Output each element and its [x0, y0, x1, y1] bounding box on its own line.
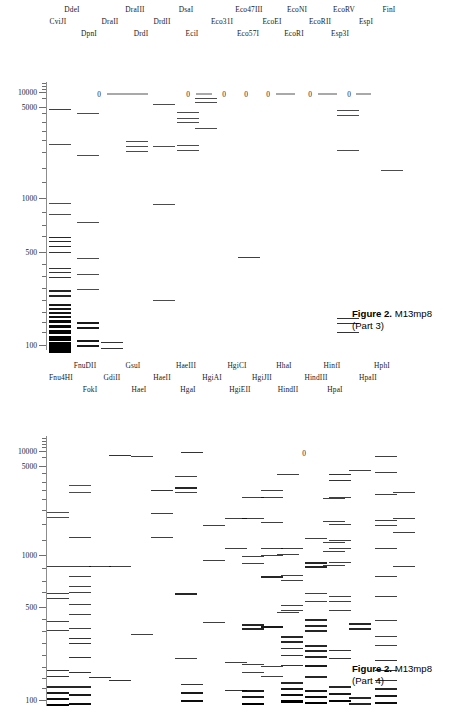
- gel-band: [305, 702, 327, 704]
- gel-band: [305, 696, 327, 698]
- y-axis-minor-tick: [42, 322, 46, 323]
- gel-band: [49, 316, 71, 318]
- gel-band: [47, 704, 69, 706]
- gel-lanes-area: 10000500010005001000: [0, 356, 452, 671]
- y-axis-major-tick: [39, 345, 46, 346]
- gel-band: [109, 680, 131, 681]
- figure-caption-label: Figure 2.: [352, 308, 392, 319]
- gel-band: [281, 694, 303, 696]
- gel-band: [77, 340, 99, 342]
- gel-band: [77, 322, 99, 324]
- gel-band: [181, 700, 203, 702]
- gel-band: [69, 672, 91, 673]
- gel-band: [393, 566, 415, 567]
- gel-band: [393, 492, 415, 493]
- gel-band: [181, 692, 203, 694]
- gel-lanes-area: 10000500010005001000000000: [0, 0, 452, 312]
- gel-band: [305, 676, 327, 678]
- gel-band: [89, 677, 111, 678]
- gel-band: [49, 336, 71, 341]
- gel-band: [49, 312, 71, 314]
- y-axis-major-tick: [39, 700, 46, 701]
- y-axis-minor-tick: [42, 678, 46, 679]
- figure-caption-label: Figure 2.: [352, 663, 392, 674]
- gel-band: [393, 532, 415, 533]
- gel-band: [47, 692, 69, 694]
- gel-band: [49, 325, 71, 328]
- figure-caption-name: M13mp8: [395, 663, 432, 674]
- gel-panel-part3: DdeIDraIIIDsaIEco47IIIEcoNIEcoRVFinICviJ…: [0, 0, 452, 356]
- gel-band: [181, 684, 203, 685]
- gel-band: [242, 696, 264, 698]
- gel-band: [69, 694, 91, 696]
- gel-lane-hphi: [0, 356, 452, 671]
- gel-band: [375, 702, 397, 704]
- gel-band: [47, 686, 69, 688]
- gel-band: [47, 676, 69, 677]
- figure-caption: Figure 2. M13mp8(Part 4): [352, 663, 432, 687]
- gel-band: [49, 348, 71, 353]
- gel-band: [47, 698, 69, 700]
- gel-band: [101, 342, 123, 343]
- gel-band: [329, 693, 351, 695]
- gel-band: [329, 686, 351, 688]
- figure-caption-part: (Part 4): [352, 675, 432, 687]
- gel-band: [69, 703, 91, 705]
- gel-band: [375, 688, 397, 690]
- gel-band: [242, 672, 264, 673]
- gel-band: [281, 688, 303, 690]
- y-axis-minor-tick: [42, 312, 46, 313]
- figure-caption: Figure 2. M13mp8(Part 3): [352, 308, 432, 332]
- gel-panel-part4: FnuDIIGsuIHaeIIIHgiCIHhaIHinfIHphIFnu4HI…: [0, 356, 452, 713]
- gel-band: [77, 327, 99, 329]
- figure-caption-part: (Part 3): [352, 320, 432, 332]
- gel-lane-fini: [0, 0, 452, 312]
- gel-band: [305, 690, 327, 692]
- y-axis-label: 100: [0, 696, 37, 705]
- gel-band: [393, 518, 415, 519]
- gel-band: [375, 695, 397, 697]
- gel-band: [69, 686, 91, 688]
- y-axis-minor-tick: [42, 332, 46, 333]
- gel-band: [49, 320, 71, 323]
- gel-band: [349, 703, 371, 705]
- gel-band: [101, 348, 123, 349]
- gel-band: [281, 700, 303, 703]
- figure-caption-name: M13mp8: [395, 308, 432, 319]
- gel-band: [49, 330, 71, 334]
- y-axis-minor-tick: [42, 688, 46, 689]
- gel-band: [281, 682, 303, 684]
- gel-band: [329, 700, 351, 702]
- gel-band: [77, 345, 99, 347]
- gel-band: [242, 703, 264, 705]
- y-axis-label: 100: [0, 341, 37, 350]
- gel-band: [261, 676, 283, 677]
- gel-band: [242, 690, 264, 692]
- gel-band: [337, 332, 359, 333]
- gel-band: [349, 697, 371, 699]
